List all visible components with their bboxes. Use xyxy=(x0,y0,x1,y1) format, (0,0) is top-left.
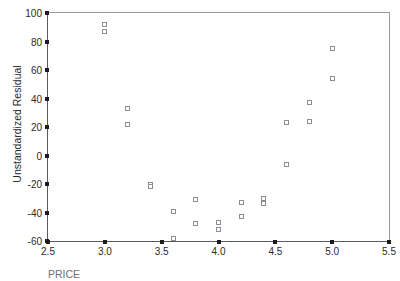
x-axis-tick-label: 3.5 xyxy=(155,246,169,257)
x-axis-tick xyxy=(273,240,277,244)
data-point xyxy=(239,214,244,219)
x-axis-tick-label: 4.5 xyxy=(268,246,282,257)
data-point xyxy=(284,162,289,167)
data-point xyxy=(239,200,244,205)
y-axis-tick xyxy=(45,97,49,101)
y-axis-tick xyxy=(45,154,49,158)
x-axis-tick xyxy=(387,240,391,244)
x-axis-title: PRICE xyxy=(48,268,188,281)
data-point xyxy=(284,120,289,125)
y-axis-tick xyxy=(45,125,49,129)
y-axis-tick-label: 20 xyxy=(31,122,42,133)
y-axis-tick-label: -40 xyxy=(28,207,42,218)
x-axis-tick xyxy=(103,240,107,244)
data-point xyxy=(102,29,107,34)
scatter-plot-figure: Unstandardized Residual 100806040200-20-… xyxy=(0,0,400,281)
y-axis-tick xyxy=(45,11,49,15)
chart-title xyxy=(48,0,378,4)
x-axis-tick-label: 5.0 xyxy=(325,246,339,257)
x-axis-tick xyxy=(160,240,164,244)
data-point xyxy=(125,122,130,127)
data-point xyxy=(125,106,130,111)
y-axis-tick xyxy=(45,211,49,215)
y-axis-tick-label: 80 xyxy=(31,36,42,47)
y-axis-tick xyxy=(45,182,49,186)
data-point xyxy=(330,76,335,81)
y-axis-tick xyxy=(45,68,49,72)
y-axis-tick-label: 100 xyxy=(25,8,42,19)
y-axis-tick-label: -20 xyxy=(28,179,42,190)
y-axis-tick xyxy=(45,40,49,44)
x-axis-tick xyxy=(46,240,50,244)
y-axis-tick-label: 40 xyxy=(31,93,42,104)
y-axis-tick-label: 60 xyxy=(31,65,42,76)
data-point xyxy=(216,227,221,232)
x-axis-tick xyxy=(330,240,334,244)
data-point xyxy=(261,196,266,201)
data-point xyxy=(148,184,153,189)
y-axis-title: Unstandardized Residual xyxy=(11,34,23,214)
data-point xyxy=(171,236,176,241)
y-axis-tick-label: -60 xyxy=(28,236,42,247)
data-point xyxy=(193,221,198,226)
x-axis-tick xyxy=(217,240,221,244)
data-point xyxy=(330,46,335,51)
data-point xyxy=(307,100,312,105)
data-point xyxy=(102,22,107,27)
x-axis-tick-label: 3.0 xyxy=(98,246,112,257)
data-point xyxy=(261,201,266,206)
x-axis-tick-label: 4.0 xyxy=(212,246,226,257)
data-point xyxy=(216,220,221,225)
x-axis-tick-label: 2.5 xyxy=(41,246,55,257)
data-point xyxy=(193,197,198,202)
y-axis-tick-label: 0 xyxy=(36,150,42,161)
data-point xyxy=(307,119,312,124)
x-axis-tick-label: 5.5 xyxy=(382,246,396,257)
plot-area: 100806040200-20-40-602.53.03.54.04.55.05… xyxy=(47,12,390,242)
data-point xyxy=(171,209,176,214)
